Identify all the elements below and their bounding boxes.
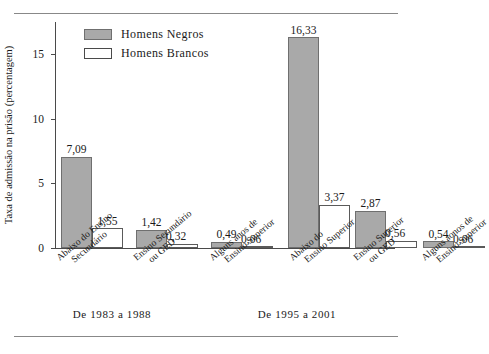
y-tick-15: 15 xyxy=(51,54,55,55)
plot-area: Taxa de admissão na prisão (percentagem)… xyxy=(55,22,395,248)
bar-value-label: 1,42 xyxy=(141,217,161,229)
y-tick-label: 0 xyxy=(38,243,44,255)
y-tick-0: 0 xyxy=(51,248,55,249)
group-caption-1995-2001: De 1995 a 2001 xyxy=(258,308,336,320)
bar-value-label: 7,09 xyxy=(66,144,86,156)
bar-value-label: 2,87 xyxy=(360,198,380,210)
y-tick-label: 10 xyxy=(33,114,45,126)
bar-value-label: 3,37 xyxy=(324,192,344,204)
y-tick-10: 10 xyxy=(51,119,55,120)
y-tick-5: 5 xyxy=(51,183,55,184)
bar-homens-negros: 16,33 xyxy=(288,37,319,248)
bottom-rule xyxy=(14,336,398,337)
top-rule xyxy=(14,13,398,14)
y-axis-line xyxy=(55,22,56,248)
y-tick-label: 15 xyxy=(33,50,45,62)
bar-value-label: 16,33 xyxy=(291,25,317,37)
y-tick-label: 5 xyxy=(38,179,44,191)
y-axis-label: Taxa de admissão na prisão (percentagem) xyxy=(3,46,14,225)
group-caption-1983-1988: De 1983 a 1988 xyxy=(73,308,151,320)
